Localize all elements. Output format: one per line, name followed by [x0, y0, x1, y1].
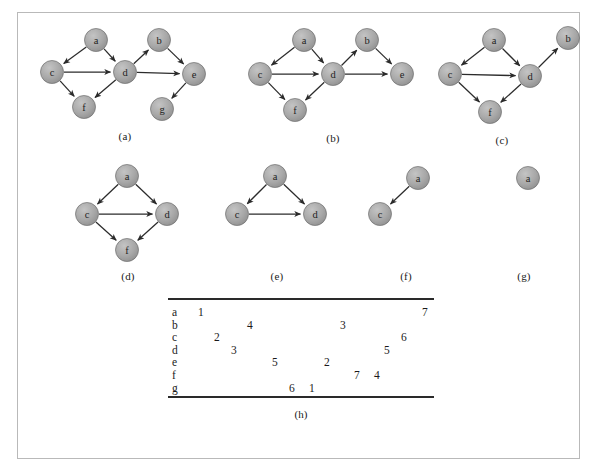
edge-a-to-c	[461, 47, 484, 65]
graph-panel-a: abcdefg (a)	[30, 22, 220, 132]
table-row-label: g	[172, 382, 178, 394]
edge-a-to-c	[247, 184, 266, 203]
table-cell-value: 3	[340, 319, 346, 331]
node-label: g	[159, 104, 165, 115]
node-label: a	[273, 171, 278, 182]
node-label: a	[302, 35, 307, 46]
graph-node-d: d	[304, 203, 327, 226]
edge-group	[459, 47, 558, 102]
graph-node-b: b	[356, 29, 379, 52]
panel-caption-f: (f)	[362, 270, 450, 282]
graph-node-c: c	[369, 203, 392, 226]
edge-group	[96, 184, 158, 240]
node-label: a	[416, 173, 421, 184]
node-label: e	[192, 69, 197, 80]
table-cell-value: 4	[247, 319, 253, 331]
graph-node-g: g	[151, 98, 174, 121]
edge-a-to-c	[271, 47, 294, 65]
panel-caption-b: (b)	[238, 132, 428, 144]
node-label: a	[526, 173, 531, 184]
node-label: f	[488, 107, 492, 118]
graph-node-b: b	[557, 27, 580, 50]
edge-group	[247, 184, 304, 214]
node-label: b	[156, 35, 161, 46]
graph-svg-a: abcdefg	[30, 22, 220, 130]
edge-d-to-b	[538, 48, 557, 67]
edge-e-to-g	[172, 83, 186, 98]
graph-panel-c: abcdf (c)	[432, 22, 592, 136]
table-row-label: b	[172, 319, 178, 331]
edge-c-to-f	[459, 82, 480, 102]
edge-b-to-e	[168, 48, 184, 64]
graph-node-a: a	[85, 29, 108, 52]
graph-panel-e: acd (e)	[215, 160, 350, 272]
node-label: f	[293, 105, 297, 116]
edge-d-to-e	[137, 72, 180, 73]
table-row: e52	[168, 356, 434, 369]
graph-node-e: e	[391, 63, 414, 86]
edge-a-to-d	[136, 184, 157, 204]
table-row: g61	[168, 382, 434, 395]
graph-node-c: c	[76, 203, 99, 226]
node-label: a	[492, 35, 497, 46]
node-label: f	[82, 102, 86, 113]
table-cell-value: 3	[231, 344, 237, 356]
edge-a-to-d	[104, 49, 115, 61]
edge-d-to-b	[341, 50, 356, 65]
panel-caption-e: (e)	[215, 270, 339, 282]
figure-page: abcdefg (a) abcdef (b) abcdf (c) acdf (d…	[0, 0, 596, 473]
table-row-label: c	[172, 331, 177, 343]
graph-node-d: d	[156, 203, 179, 226]
edge-d-to-f	[501, 84, 521, 102]
graph-node-a: a	[293, 29, 316, 52]
edge-a-to-d	[284, 184, 305, 204]
node-label: d	[312, 209, 318, 220]
table-cell-value: 4	[374, 369, 380, 381]
table-cell-value: 1	[309, 382, 315, 394]
graph-panel-f: ac (f)	[362, 160, 472, 272]
edge-c-to-d	[462, 74, 516, 75]
table-row: b43	[168, 319, 434, 332]
table-cell-value: 1	[198, 306, 204, 318]
node-label: d	[527, 71, 533, 82]
graph-svg-f: ac	[362, 160, 472, 270]
graph-node-f: f	[116, 239, 139, 262]
table-cell-value: 6	[289, 382, 295, 394]
edge-group	[391, 186, 410, 204]
panel-caption-c: (c)	[432, 134, 572, 146]
node-label: a	[125, 171, 130, 182]
graph-node-e: e	[183, 63, 206, 86]
graph-node-a: a	[407, 167, 430, 190]
node-label: d	[164, 209, 170, 220]
edge-c-to-f	[96, 222, 116, 240]
graph-svg-d: acdf	[72, 160, 202, 270]
table-cell-value: 5	[272, 356, 278, 368]
edge-a-to-c	[98, 184, 119, 204]
graph-node-a: a	[116, 165, 139, 188]
graph-svg-e: acd	[215, 160, 350, 270]
table-bottom-rule	[168, 396, 434, 398]
graph-panel-d: acdf (d)	[72, 160, 202, 272]
graph-node-d: d	[114, 61, 137, 84]
graph-node-a: a	[517, 167, 540, 190]
edge-c-to-f	[268, 83, 285, 100]
table-cell-value: 5	[384, 344, 390, 356]
edge-a-to-c	[64, 47, 87, 63]
edge-d-to-f	[306, 82, 325, 100]
graph-node-d: d	[519, 65, 542, 88]
graph-panel-g: a (g)	[478, 160, 588, 272]
edge-a-to-d	[502, 48, 519, 65]
graph-panel-b: abcdef (b)	[238, 22, 428, 134]
table-row: d35	[168, 344, 434, 357]
graph-node-d: d	[322, 63, 345, 86]
table-row: c26	[168, 331, 434, 344]
table-row-label: f	[172, 369, 176, 381]
node-label: c	[258, 69, 263, 80]
edge-d-to-b	[134, 50, 149, 64]
edge-d-to-f	[95, 80, 116, 98]
graph-node-c: c	[41, 61, 64, 84]
table-cell-value: 2	[214, 331, 220, 343]
graph-node-f: f	[284, 99, 307, 122]
graph-node-f: f	[479, 101, 502, 124]
edge-c-to-f	[60, 81, 74, 96]
